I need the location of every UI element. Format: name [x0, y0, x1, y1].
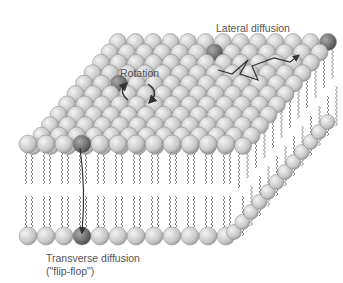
lateral-diffusion-label: Lateral diffusion [216, 22, 290, 34]
rotation-label: Rotation [120, 67, 159, 79]
transverse-diffusion-label: Transverse diffusion [46, 252, 140, 264]
flip-flop-arrow [80, 148, 84, 232]
lipid-heads [19, 34, 337, 246]
lipid-bilayer-diagram [0, 0, 343, 283]
flip-flop-label: ("flip-flop") [46, 265, 94, 277]
